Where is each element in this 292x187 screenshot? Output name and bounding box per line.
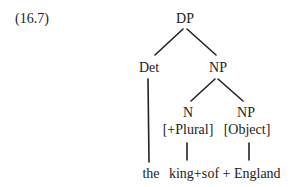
- edge-dp-det: [155, 29, 183, 55]
- feature-plural: [+Plural]: [163, 122, 214, 138]
- edge-det-the: [148, 79, 149, 162]
- node-np: NP: [209, 60, 227, 76]
- node-det: Det: [139, 60, 159, 76]
- node-n: N: [183, 105, 193, 121]
- leaf-kings: king+s: [169, 166, 207, 182]
- node-dp: DP: [176, 11, 194, 27]
- edge-np-npobj: [218, 79, 243, 101]
- node-np-object: NP: [237, 105, 255, 121]
- leaf-the: the: [142, 166, 159, 182]
- feature-object: [Object]: [224, 122, 271, 138]
- leaf-of-england: of + England: [207, 166, 280, 182]
- edge-dp-np: [187, 29, 216, 55]
- edge-np-n: [191, 79, 215, 101]
- tree-edges: [0, 0, 292, 187]
